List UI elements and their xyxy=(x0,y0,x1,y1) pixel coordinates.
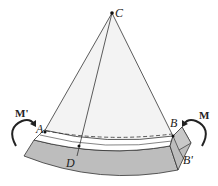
point-c xyxy=(110,11,114,15)
label-d: D xyxy=(65,156,75,170)
label-b-prime: B' xyxy=(183,153,193,167)
curvature-sector xyxy=(44,13,173,140)
point-a xyxy=(44,131,47,134)
point-b xyxy=(172,135,175,138)
label-c: C xyxy=(115,6,124,20)
point-d xyxy=(78,145,81,148)
bending-diagram: C A B D B' M' M xyxy=(0,0,218,186)
label-a: A xyxy=(35,122,44,136)
label-b: B xyxy=(170,116,178,130)
label-moment-left: M' xyxy=(15,107,28,119)
label-moment-right: M xyxy=(199,109,210,121)
